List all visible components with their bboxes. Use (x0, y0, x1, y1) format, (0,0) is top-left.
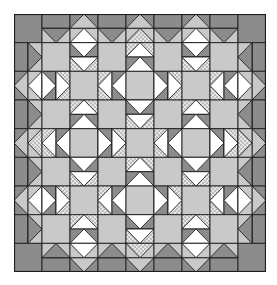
plain-square (98, 100, 126, 129)
border-band (252, 100, 266, 129)
plain-square (210, 43, 238, 72)
plain-square (210, 157, 238, 186)
plain-square (42, 157, 70, 186)
quilt-cells (14, 14, 266, 272)
corner-block (238, 14, 266, 43)
border-band (14, 100, 28, 129)
plain-square (42, 215, 70, 244)
border-band (154, 258, 182, 272)
corner-block (238, 243, 266, 272)
border-band (98, 258, 126, 272)
border-band (210, 258, 238, 272)
border-band (42, 258, 70, 272)
plain-square (182, 129, 210, 158)
border-band (14, 43, 28, 72)
border-band (14, 157, 28, 186)
plain-square (126, 186, 154, 215)
border-band (154, 14, 182, 28)
corner-block (14, 14, 42, 43)
plain-square (42, 43, 70, 72)
plain-square (98, 157, 126, 186)
plain-square (126, 129, 154, 158)
plain-square (182, 186, 210, 215)
plain-square (210, 215, 238, 244)
plain-square (98, 43, 126, 72)
plain-square (70, 129, 98, 158)
quilt-pattern (14, 14, 266, 272)
border-band (98, 14, 126, 28)
plain-square (126, 71, 154, 100)
plain-square (42, 100, 70, 129)
border-band (252, 43, 266, 72)
plain-square (210, 100, 238, 129)
plain-square (70, 71, 98, 100)
corner-block (14, 243, 42, 272)
plain-square (98, 215, 126, 244)
plain-square (154, 157, 182, 186)
border-band (252, 215, 266, 244)
border-band (252, 157, 266, 186)
border-band (14, 215, 28, 244)
plain-square (70, 186, 98, 215)
border-band (42, 14, 70, 28)
plain-square (154, 215, 182, 244)
border-band (210, 14, 238, 28)
plain-square (154, 43, 182, 72)
plain-square (154, 100, 182, 129)
plain-square (182, 71, 210, 100)
